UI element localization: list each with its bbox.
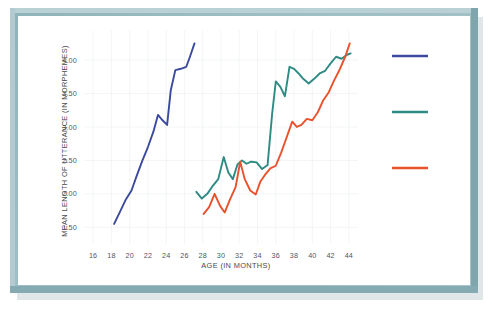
series-layer bbox=[114, 43, 351, 224]
line-chart: 1.502.002.503.003.504.00 161820222426283… bbox=[18, 16, 470, 285]
chart-legend bbox=[392, 56, 428, 168]
x-tick-label-4: 24 bbox=[162, 251, 170, 260]
frame-bevel-bottom bbox=[10, 286, 478, 293]
x-tick-label-7: 30 bbox=[217, 251, 225, 260]
x-tick-label-13: 42 bbox=[326, 251, 334, 260]
x-tick-label-8: 32 bbox=[235, 251, 243, 260]
frame-bevel-left bbox=[10, 8, 15, 293]
frame-bevel-right bbox=[471, 8, 478, 293]
series-line-1 bbox=[114, 43, 194, 224]
x-tick-label-2: 20 bbox=[125, 251, 133, 260]
x-tick-label-11: 38 bbox=[290, 251, 298, 260]
x-tick-label-9: 34 bbox=[253, 251, 261, 260]
x-tick-label-12: 40 bbox=[308, 251, 316, 260]
x-axis-title: AGE (IN MONTHS) bbox=[201, 261, 270, 270]
x-tick-label-5: 26 bbox=[180, 251, 188, 260]
frame-bevel-top bbox=[10, 8, 478, 13]
x-tick-label-1: 18 bbox=[107, 251, 115, 260]
x-tick-label-10: 36 bbox=[272, 251, 280, 260]
x-tick-label-14: 44 bbox=[345, 251, 353, 260]
chart-svg: 1.502.002.503.003.504.00 161820222426283… bbox=[18, 16, 470, 285]
series-line-2 bbox=[196, 53, 350, 198]
x-tick-label-3: 22 bbox=[144, 251, 152, 260]
x-tick-label-0: 16 bbox=[89, 251, 97, 260]
series-line-3 bbox=[204, 43, 350, 214]
y-axis-title: MEAN LENGTH OF UTTERANCE (IN MORPHEMES) bbox=[60, 45, 69, 236]
x-tick-label-6: 28 bbox=[199, 251, 207, 260]
x-axis-tick-labels: 161820222426283032343638404244 bbox=[89, 251, 353, 260]
screenshot-stage: 1.502.002.503.003.504.00 161820222426283… bbox=[0, 0, 495, 320]
grid-layer bbox=[84, 30, 358, 244]
